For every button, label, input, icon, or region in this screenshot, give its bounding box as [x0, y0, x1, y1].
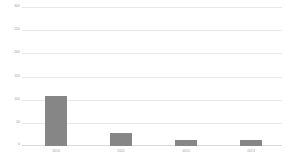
- y-tick-label: 250: [14, 28, 20, 31]
- y-tick-label: 50: [16, 121, 20, 124]
- x-tick-label-2012: 2012: [182, 150, 190, 153]
- y-tick-label: 300: [14, 5, 20, 8]
- y-axis-labels: 300 250 200 150 100 50 0: [0, 7, 286, 146]
- x-tick-label-2010: 2010: [52, 150, 60, 153]
- bar-chart: 300 250 200 150 100 50 0 2010 2011 2012 …: [0, 0, 286, 124]
- y-tick-label: 0: [18, 143, 20, 146]
- x-tick-label-2011: 2011: [117, 150, 125, 153]
- x-axis-labels: 2010 2011 2012 2013: [22, 150, 282, 160]
- y-tick-label: 100: [14, 98, 20, 101]
- x-tick-label-2013: 2013: [247, 150, 255, 153]
- y-tick-label: 150: [14, 75, 20, 78]
- y-tick-label: 200: [14, 52, 20, 55]
